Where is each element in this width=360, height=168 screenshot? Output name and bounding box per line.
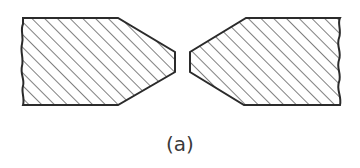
left-hatched-piece bbox=[21, 18, 175, 105]
right-hatched-piece bbox=[190, 18, 340, 105]
figure-caption: (a) bbox=[0, 132, 360, 156]
